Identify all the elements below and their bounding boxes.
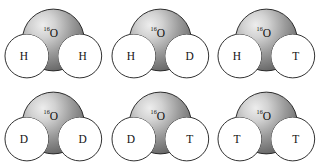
hydrogen-label-left: H xyxy=(20,50,28,62)
oxygen-symbol: O xyxy=(50,27,58,39)
molecule-diagram: 16OHD xyxy=(107,0,214,83)
hydrogen-label-left: D xyxy=(126,133,134,145)
oxygen-symbol: O xyxy=(156,27,164,39)
oxygen-symbol: O xyxy=(156,110,164,122)
molecule-water-h-d: 16OHD xyxy=(107,0,214,83)
hydrogen-label-left: D xyxy=(20,133,28,145)
hydrogen-label-right: T xyxy=(293,50,300,62)
molecule-grid: 16OHH16OHD16OHT16ODD16ODT16OTT xyxy=(0,0,320,166)
molecule-water-d-d: 16ODD xyxy=(0,83,107,166)
molecule-water-d-t: 16ODT xyxy=(107,83,214,166)
oxygen-symbol: O xyxy=(263,27,271,39)
hydrogen-label-right: T xyxy=(293,133,300,145)
hydrogen-label-left: H xyxy=(233,50,241,62)
molecule-water-h-h: 16OHH xyxy=(0,0,107,83)
molecule-diagram: 16ODD xyxy=(0,83,107,166)
hydrogen-label-left: T xyxy=(234,133,241,145)
molecule-water-t-t: 16OTT xyxy=(213,83,320,166)
molecule-water-h-t: 16OHT xyxy=(213,0,320,83)
molecule-diagram: 16ODT xyxy=(107,83,214,166)
hydrogen-label-right: H xyxy=(79,50,87,62)
hydrogen-label-left: H xyxy=(126,50,134,62)
molecule-diagram: 16OHT xyxy=(213,0,320,83)
oxygen-symbol: O xyxy=(263,110,271,122)
molecule-diagram: 16OHH xyxy=(0,0,107,83)
hydrogen-label-right: D xyxy=(79,133,87,145)
molecule-diagram: 16OTT xyxy=(213,83,320,166)
hydrogen-label-right: D xyxy=(185,50,193,62)
hydrogen-label-right: T xyxy=(186,133,193,145)
oxygen-symbol: O xyxy=(50,110,58,122)
